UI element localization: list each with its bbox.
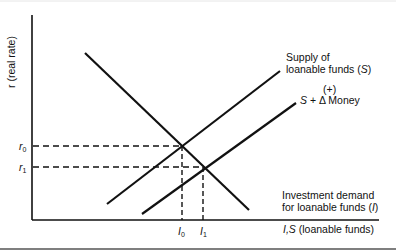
- r1-label: r1: [19, 161, 26, 177]
- supply-curve: [107, 71, 280, 204]
- x-axis-label: I,S (loanable funds): [283, 223, 374, 235]
- loanable-funds-diagram: [0, 0, 396, 251]
- demand-label: Investment demand for loanable funds (I): [282, 189, 378, 213]
- i1-label: I1: [200, 225, 207, 241]
- y-axis-label: r (real rate): [5, 18, 17, 88]
- supply-label: Supply of loanable funds (S): [286, 51, 371, 75]
- shifted-supply-label: S + Δ Money: [300, 94, 360, 106]
- r0-label: r0: [19, 140, 26, 156]
- demand-curve: [85, 53, 249, 210]
- i0-label: I0: [178, 225, 185, 241]
